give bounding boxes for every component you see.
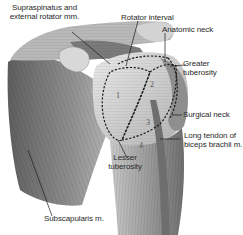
label-long-tendon: Long tendon of biceps brachii m. [184,131,242,149]
label-greater-tuberosity: Greater tuberosity [183,59,217,77]
label-lesser-tuberosity-line2: tuberosity [100,162,150,171]
region-number-4: 4 [139,141,143,150]
label-supraspinatus: Supraspinatus and external rotator mm. [2,3,87,21]
label-rotator-interval: Rotator interval [121,13,174,22]
label-greater-tuberosity-line2: tuberosity [183,68,217,77]
label-subscapularis: Subscapularis m. [44,214,104,223]
region-number-1: 1 [116,91,120,100]
region-number-2: 2 [150,80,154,89]
label-surgical-neck: Surgical neck [183,110,230,119]
region-number-3: 3 [146,118,150,127]
label-lesser-tuberosity-line1: Lesser [100,153,150,162]
label-anatomic-neck: Anatomic neck [162,25,213,34]
label-long-tendon-line1: Long tendon of [184,131,242,140]
label-supraspinatus-line2: external rotator mm. [2,12,87,21]
label-long-tendon-line2: biceps brachii m. [184,140,242,149]
label-lesser-tuberosity: Lesser tuberosity [100,153,150,171]
label-supraspinatus-line1: Supraspinatus and [2,3,87,12]
label-greater-tuberosity-line1: Greater [183,59,217,68]
